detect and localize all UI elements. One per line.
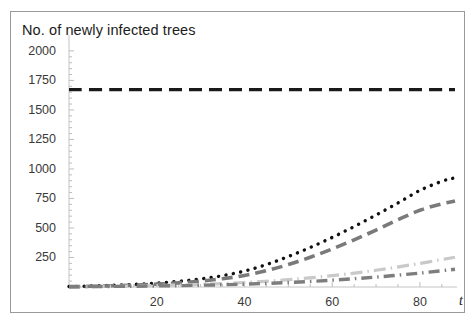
y-tick-label: 750	[10, 191, 56, 205]
x-tick-label: 40	[224, 295, 264, 309]
y-tick-label: 1500	[10, 103, 56, 117]
x-tick-label: 20	[137, 295, 177, 309]
x-tick-label: 60	[312, 295, 352, 309]
y-tick-label: 500	[10, 221, 56, 235]
chart-figure: No. of newly infected trees 200017501500…	[0, 0, 475, 324]
y-tick-label: 1750	[10, 73, 56, 87]
y-tick-label: 1250	[10, 132, 56, 146]
y-tick-label: 2000	[10, 44, 56, 58]
series-control-b-dark-gray-dashed	[69, 201, 455, 287]
y-tick-label: 1000	[10, 162, 56, 176]
x-tick-label: 80	[400, 295, 440, 309]
y-tick-label: 250	[10, 250, 56, 264]
plot-canvas	[10, 11, 465, 313]
x-axis-label: t	[459, 293, 463, 309]
plot-area	[10, 11, 465, 313]
